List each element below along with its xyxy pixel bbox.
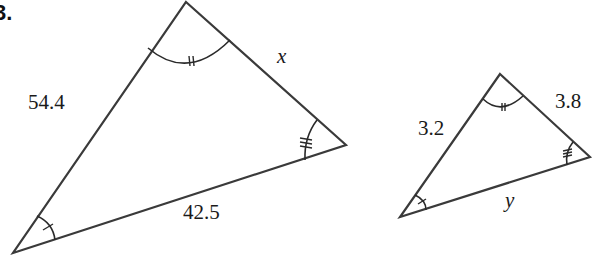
- big-right-tick-2: [300, 142, 312, 144]
- big-right-side-label: x: [276, 44, 287, 68]
- big-apex-tick-1: [189, 56, 190, 66]
- small-triangle: 3.2 3.8 y: [400, 74, 590, 217]
- small-right-tick-1: [563, 149, 572, 151]
- small-apex-angle-arc: [483, 96, 523, 107]
- small-bottom-side-label: y: [503, 188, 515, 212]
- small-right-side-label: 3.8: [555, 89, 581, 113]
- similar-triangles-diagram: 3. 54.4 x 42.5 3.2 3.8: [0, 0, 597, 256]
- big-apex-tick-2: [193, 56, 194, 66]
- small-left-side-label: 3.2: [418, 116, 444, 140]
- big-right-tick-3: [300, 146, 312, 148]
- small-right-tick-3: [563, 155, 572, 157]
- big-bottom-side-label: 42.5: [183, 200, 220, 224]
- big-right-tick-1: [300, 138, 312, 140]
- small-right-tick-2: [563, 152, 572, 154]
- big-triangle: 54.4 x 42.5: [13, 2, 346, 253]
- big-left-side-label: 54.4: [28, 90, 65, 114]
- big-triangle-outline: [13, 2, 346, 253]
- question-number: 3.: [0, 0, 12, 25]
